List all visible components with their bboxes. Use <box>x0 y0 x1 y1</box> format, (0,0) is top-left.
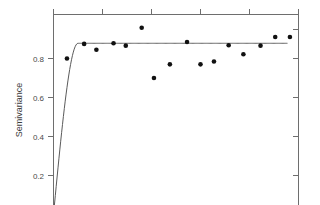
data-point <box>258 43 263 48</box>
axes-group <box>54 14 300 205</box>
data-point <box>111 41 116 46</box>
y-tick-label-3: 0.2 <box>33 172 45 181</box>
fitted-model-curve <box>54 43 288 205</box>
data-point <box>82 42 87 47</box>
data-point <box>139 25 144 30</box>
data-point <box>273 35 278 40</box>
data-point <box>123 43 128 48</box>
data-point <box>185 40 190 45</box>
data-point <box>226 43 231 48</box>
data-point <box>152 76 157 81</box>
data-point <box>65 56 70 61</box>
y-axis-ticks: 0.8 0.6 0.4 0.2 <box>33 55 54 181</box>
y-tick-label-2: 0.4 <box>33 133 45 142</box>
data-point <box>94 47 99 52</box>
right-axis-ticks <box>293 30 299 176</box>
data-point <box>212 59 217 64</box>
data-point <box>288 35 293 40</box>
y-tick-label-1: 0.6 <box>33 94 45 103</box>
top-axis-ticks <box>54 9 299 15</box>
data-point <box>241 52 246 57</box>
y-tick-label-0: 0.8 <box>33 55 45 64</box>
data-point <box>198 62 203 67</box>
data-points-group <box>65 25 293 80</box>
y-axis-title: Semivariance <box>14 83 24 138</box>
chart-canvas: 0.8 0.6 0.4 0.2 Semivariance <box>0 0 320 205</box>
data-point <box>168 62 173 67</box>
